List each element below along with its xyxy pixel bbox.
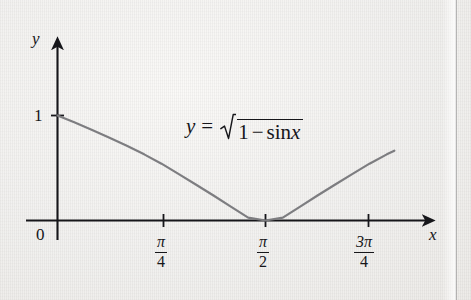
math-figure: y x 0 1 π 4 π 2 3π 4 y = 1−s xyxy=(0,0,471,300)
square-root-expression: 1−sinx xyxy=(220,116,303,143)
page-edge-shadow xyxy=(455,0,457,300)
y-axis-label: y xyxy=(32,30,40,47)
x-tick-label-pi-over-2: π 2 xyxy=(257,234,269,271)
x-tick-label-3pi-over-4: 3π 4 xyxy=(354,234,374,271)
radicand-function: sin xyxy=(267,120,292,144)
graph-canvas xyxy=(0,0,471,300)
x-axis-label: x xyxy=(429,226,437,243)
radicand-operator: − xyxy=(249,120,267,144)
x-tick-label-pi-over-2-numerator: π xyxy=(257,234,269,253)
x-tick-label-pi-over-4-denominator: 4 xyxy=(155,253,167,271)
x-tick-label-pi-over-4-numerator: π xyxy=(155,234,167,253)
radical-sign-icon xyxy=(220,113,236,140)
equation-lhs: y xyxy=(186,116,201,137)
radicand-argument: x xyxy=(291,120,300,144)
radicand-first-term: 1 xyxy=(238,120,249,144)
x-tick-label-3pi-over-4-numerator: 3π xyxy=(354,234,374,253)
x-tick-label-pi-over-2-denominator: 2 xyxy=(257,253,269,271)
page-gutter-highlight xyxy=(442,0,456,300)
equation-relation: = xyxy=(201,116,220,137)
equation-label: y = 1−sinx xyxy=(186,116,303,143)
origin-label: 0 xyxy=(36,226,45,243)
x-tick-label-3pi-over-4-denominator: 4 xyxy=(354,253,374,271)
y-tick-label-1: 1 xyxy=(34,107,43,124)
x-tick-label-pi-over-4: π 4 xyxy=(155,234,167,271)
radicand: 1−sinx xyxy=(237,119,303,143)
